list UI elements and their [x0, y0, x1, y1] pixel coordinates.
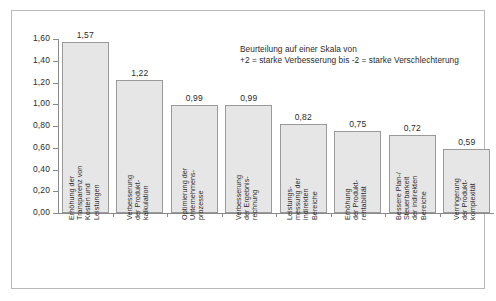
category-label-line: Bereiche [310, 178, 318, 220]
scale-annotation: Beurteilung auf einer Skala von +2 = sta… [240, 44, 459, 66]
category-label: Erhöhung derTransparenz vonKosten undLei… [68, 166, 101, 220]
y-tick-mark [53, 213, 58, 214]
category-label-line: Bereiche [419, 172, 427, 220]
bar-value-label: 0,75 [349, 119, 366, 129]
y-tick-label: 1,20 [33, 77, 50, 87]
x-tick-mark [385, 213, 386, 217]
x-tick-mark [276, 213, 277, 217]
category-label-line: komplexität [470, 178, 478, 220]
y-tick: 0,00 [53, 213, 58, 214]
x-tick-mark [167, 213, 168, 217]
y-tick-label: 0,20 [33, 185, 50, 195]
y-tick-label: 1,60 [33, 33, 50, 43]
annotation-line-2: +2 = starke Verbesserung bis -2 = starke… [240, 55, 459, 66]
category-label: Verringerungder Produkt-komplexität [453, 178, 478, 220]
category-label-line: rentabilität [361, 180, 369, 220]
category-label-line: prozesse [197, 168, 205, 220]
x-tick-mark [113, 213, 114, 217]
y-tick-label: 0,40 [33, 164, 50, 174]
bar-value-label: 1,57 [77, 30, 94, 40]
category-label-line: kalkulation [143, 175, 151, 220]
y-tick-label: 0,80 [33, 120, 50, 130]
bar-value-label: 0,99 [186, 93, 203, 103]
bar-value-label: 0,82 [295, 112, 312, 122]
chart-page: 0,000,200,400,600,801,001,201,401,60 1,5… [0, 0, 496, 301]
y-tick-label: 1,40 [33, 55, 50, 65]
bar-value-label: 0,72 [404, 123, 421, 133]
y-tick-label: 0,00 [33, 207, 50, 217]
category-label: Optimierung derUnternehmens-prozesse [181, 168, 206, 220]
annotation-line-1: Beurteilung auf einer Skala von [240, 44, 459, 55]
x-tick-mark [222, 213, 223, 217]
bar-value-label: 1,22 [131, 68, 148, 78]
category-label: Verbesserungder Ergebnis-rechnung [235, 175, 260, 220]
bar-value-label: 0,99 [240, 93, 257, 103]
bar-value-label: 0,59 [458, 137, 475, 147]
category-label: Erhöhungder Produkt-rentabilität [344, 180, 369, 220]
category-label: Verbesserungder Produkt-kalkulation [126, 175, 151, 220]
category-label-line: rechnung [252, 175, 260, 220]
chart-frame: 0,000,200,400,600,801,001,201,401,60 1,5… [11, 10, 485, 289]
category-label: Leistungs-messung derindirektenBereiche [286, 178, 319, 220]
y-tick-label: 1,00 [33, 98, 50, 108]
y-tick-label: 0,60 [33, 142, 50, 152]
category-label: Bessere Plan-/Steuerbarkeitder indirekte… [395, 172, 428, 220]
x-tick-mark [331, 213, 332, 217]
x-tick-mark [440, 213, 441, 217]
category-label-line: Leistungen [92, 166, 100, 220]
